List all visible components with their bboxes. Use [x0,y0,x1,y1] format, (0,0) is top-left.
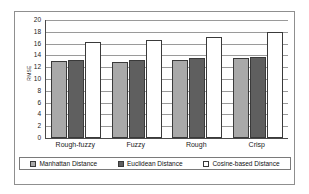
bar[interactable] [267,32,283,138]
bar-group [107,20,168,138]
x-axis-label-rough-fuzzy: Rough-fuzzy [45,141,106,148]
y-axis-tick-14: 14 [23,52,41,58]
y-axis-tick-8: 8 [23,88,41,94]
bar[interactable] [85,42,101,138]
x-axis-label-crisp: Crisp [227,141,288,148]
legend-label: Manhattan Distance [39,160,97,167]
y-axis-tick-labels: 20181614121086420 [23,20,41,138]
y-axis-tick-10: 10 [23,76,41,82]
y-axis-tick-20: 20 [23,17,41,23]
bar[interactable] [206,37,222,138]
bar[interactable] [112,62,128,138]
legend-item[interactable]: Cosine-based Distance [203,160,279,167]
bar-groups [46,20,288,138]
legend-item[interactable]: Manhattan Distance [30,160,97,167]
bar[interactable] [172,60,188,138]
plot-area [45,20,288,139]
bar[interactable] [68,60,84,138]
cosine-swatch [203,161,209,167]
bar-group [228,20,289,138]
x-axis-label-rough: Rough [166,141,227,148]
bar[interactable] [129,60,145,138]
bar-group [46,20,107,138]
bar-group [167,20,228,138]
y-axis-tick-18: 18 [23,29,41,35]
plot-wrapper: RMSE 20181614121086420 Rough-fuzzyFuzzyR… [15,12,296,152]
bar[interactable] [189,58,205,138]
chart-legend: Manhattan DistanceEuclidean DistanceCosi… [19,157,291,170]
bar[interactable] [51,61,67,138]
y-axis-tick-0: 0 [23,135,41,141]
x-axis-label-fuzzy: Fuzzy [106,141,167,148]
legend-label: Cosine-based Distance [212,160,279,167]
bar[interactable] [233,58,249,138]
y-axis-tick-12: 12 [23,64,41,70]
legend-label: Euclidean Distance [127,160,183,167]
y-axis-tick-2: 2 [23,123,41,129]
y-axis-tick-16: 16 [23,41,41,47]
bar[interactable] [146,40,162,138]
chart-frame: RMSE 20181614121086420 Rough-fuzzyFuzzyR… [14,11,295,185]
bar[interactable] [250,57,266,138]
y-axis-tick-4: 4 [23,111,41,117]
manhattan-swatch [30,161,36,167]
euclidean-swatch [118,161,124,167]
legend-item[interactable]: Euclidean Distance [118,160,183,167]
x-axis-tick-labels: Rough-fuzzyFuzzyRoughCrisp [45,141,287,148]
y-axis-tick-6: 6 [23,100,41,106]
